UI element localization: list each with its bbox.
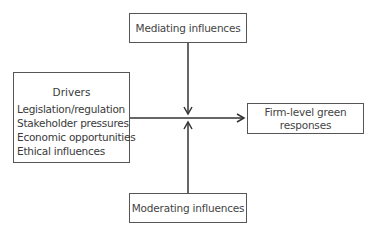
driver-item: Legislation/regulation	[14, 102, 129, 116]
drivers-box: Drivers Legislation/regulation Stakehold…	[13, 72, 130, 163]
outcome-label-line2: responses	[280, 119, 331, 132]
firm-level-green-responses-box: Firm-level green responses	[247, 103, 364, 134]
driver-item: Economic opportunities	[14, 130, 129, 144]
outcome-label-line1: Firm-level green	[265, 106, 347, 119]
driver-item: Ethical influences	[14, 144, 129, 158]
moderating-influences-label: Moderating influences	[132, 202, 245, 215]
driver-item: Stakeholder pressures	[14, 116, 129, 130]
moderating-influences-box: Moderating influences	[129, 193, 247, 223]
mediating-influences-box: Mediating influences	[129, 13, 247, 43]
drivers-title: Drivers	[14, 86, 129, 99]
mediating-influences-label: Mediating influences	[136, 22, 241, 35]
